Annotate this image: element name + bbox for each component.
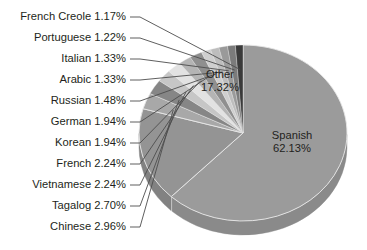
pie-slices <box>139 45 347 221</box>
pie-chart-figure: French Creole 1.17%Portuguese 1.22%Itali… <box>0 0 367 250</box>
pie-chart-svg: French Creole 1.17%Portuguese 1.22%Itali… <box>0 0 367 250</box>
slice-label-other: Other17.32% <box>201 68 239 93</box>
callout-label-korean: Korean 1.94% <box>55 136 126 148</box>
callout-label-italian: Italian 1.33% <box>61 52 126 64</box>
callout-label-portuguese: Portuguese 1.22% <box>34 31 126 43</box>
callout-label-german: German 1.94% <box>51 115 126 127</box>
callout-label-arabic: Arabic 1.33% <box>59 73 126 85</box>
callout-label-vietnamese: Vietnamese 2.24% <box>32 178 126 190</box>
slice-label-spanish: Spanish62.13% <box>272 129 312 154</box>
callout-label-chinese: Chinese 2.96% <box>50 220 126 232</box>
callout-label-russian: Russian 1.48% <box>51 94 126 106</box>
callout-label-french-creole: French Creole 1.17% <box>20 10 126 22</box>
callout-label-french: French 2.24% <box>56 157 126 169</box>
callout-label-tagalog: Tagalog 2.70% <box>52 199 126 211</box>
